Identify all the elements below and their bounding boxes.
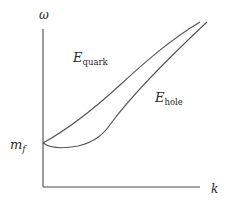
- curve-e-hole: [43, 22, 207, 148]
- mass-label: mf: [10, 137, 27, 154]
- mass-label-main: m: [10, 137, 22, 152]
- quark-label: Equark: [72, 50, 109, 67]
- hole-label-sub: hole: [165, 97, 183, 107]
- y-axis-label: ω: [39, 8, 49, 22]
- dispersion-diagram: ω k mf Equark Ehole: [0, 0, 232, 203]
- hole-label: Ehole: [154, 90, 183, 107]
- quark-label-main: E: [72, 50, 83, 65]
- curve-e-quark: [43, 22, 200, 143]
- quark-label-sub: quark: [83, 57, 109, 67]
- mass-label-sub: f: [21, 144, 27, 154]
- hole-label-main: E: [154, 90, 165, 105]
- x-axis-label: k: [211, 182, 218, 196]
